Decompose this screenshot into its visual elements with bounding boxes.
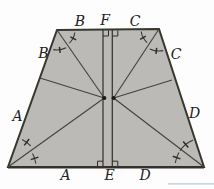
label-b-top: B	[74, 13, 85, 29]
watermark-line	[168, 183, 214, 185]
label-b-side: B	[37, 45, 48, 61]
geometry-figure: B F C B C A D A E D	[0, 0, 214, 189]
angle-tick-top-right-lower	[156, 48, 157, 54]
left-center-point	[102, 96, 106, 100]
label-a-side: A	[10, 108, 22, 124]
label-e-bottom: E	[103, 167, 114, 183]
right-center-point	[112, 96, 116, 100]
label-f-top: F	[99, 12, 111, 28]
angle-tick-top-left-lower	[59, 47, 60, 53]
diagram-canvas: B F C B C A D A E D	[0, 0, 214, 189]
label-a-bottom: A	[58, 167, 70, 183]
label-c-side: C	[171, 46, 182, 62]
label-d-side: D	[188, 105, 200, 121]
label-c-top: C	[130, 13, 141, 29]
label-d-bottom: D	[138, 167, 150, 183]
